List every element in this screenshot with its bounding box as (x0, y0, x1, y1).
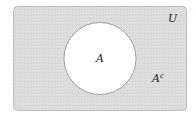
set-a-label: A (95, 52, 104, 65)
venn-diagram: U A Ac (0, 0, 196, 118)
complement-superscript: c (160, 72, 164, 80)
complement-base: A (151, 72, 160, 85)
universe-label: U (168, 12, 178, 25)
